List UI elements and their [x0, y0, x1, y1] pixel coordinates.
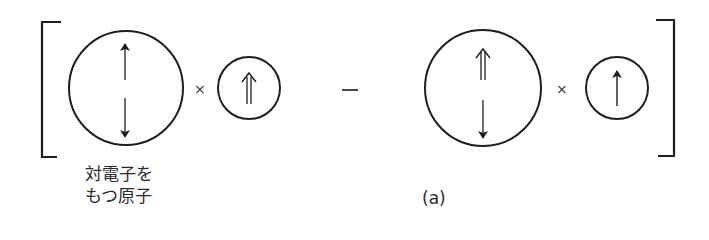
- label-line-2: もつ原子: [85, 185, 153, 207]
- double-up-arrow-icon: [242, 73, 256, 104]
- multiply-sign: ×: [556, 81, 568, 97]
- small-atom-single-up: [586, 57, 648, 119]
- right-bracket: [656, 20, 674, 156]
- label-line-1: 対電子を: [85, 163, 153, 185]
- left-bracket: [42, 22, 61, 157]
- double-up-arrow-icon: [476, 49, 490, 80]
- paired-electron-atom-label: 対電子を もつ原子: [85, 163, 153, 207]
- large-atom-paired-electrons: [69, 31, 183, 145]
- small-atom-double-up: [218, 57, 280, 119]
- large-atom-double-up-down: [425, 30, 541, 146]
- multiply-sign: ×: [194, 81, 206, 97]
- figure-caption: (a): [422, 188, 446, 208]
